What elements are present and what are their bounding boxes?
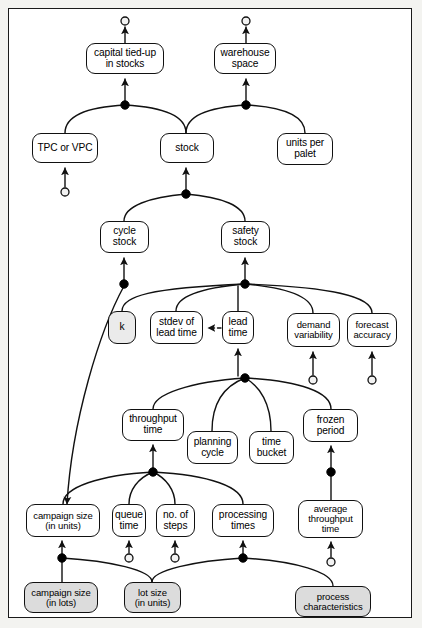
node-k[interactable]: k <box>108 311 136 344</box>
node-label-proc_char: processcharacteristics <box>301 592 364 612</box>
node-label-stdev_lt: stdev oflead time <box>154 317 198 338</box>
node-cycle_stock[interactable]: cyclestock <box>100 221 149 253</box>
node-units_palet[interactable]: units perpalet <box>277 133 333 165</box>
node-label-frozen: frozenperiod <box>315 415 347 436</box>
node-label-camp_lots: campaign size(in lots) <box>29 588 92 608</box>
node-camp_units[interactable]: campaign size(in units) <box>26 504 100 537</box>
node-label-camp_units: campaign size(in units) <box>31 511 94 531</box>
node-lot_units[interactable]: lot size(in units) <box>124 582 181 613</box>
node-label-lot_units: lot size(in units) <box>133 588 172 608</box>
node-warehouse[interactable]: warehousespace <box>214 43 276 74</box>
node-label-capital: capital tied-upin stocks <box>92 48 158 69</box>
node-label-avg_through: averagethroughputtime <box>306 504 354 534</box>
node-label-proc_times: processingtimes <box>217 510 269 531</box>
node-proc_times[interactable]: processingtimes <box>212 504 274 537</box>
node-capital[interactable]: capital tied-upin stocks <box>86 43 164 74</box>
node-throughput[interactable]: throughputtime <box>122 409 184 441</box>
node-label-forecast_acc: forecastaccuracy <box>351 320 392 340</box>
node-safety_stock[interactable]: safetystock <box>221 221 270 253</box>
node-label-queue_time: queuetime <box>113 510 145 531</box>
node-time_bucket[interactable]: timebucket <box>249 431 294 464</box>
node-avg_through[interactable]: averagethroughputtime <box>298 500 363 538</box>
node-label-time_bucket: timebucket <box>255 437 288 458</box>
node-label-warehouse: warehousespace <box>219 48 272 69</box>
node-label-safety_stock: safetystock <box>230 226 261 247</box>
node-forecast_acc[interactable]: forecastaccuracy <box>347 313 397 347</box>
node-label-tpc_vpc: TPC or VPC <box>35 143 94 154</box>
node-stdev_lt[interactable]: stdev oflead time <box>150 311 203 344</box>
node-lead_time[interactable]: leadtime <box>222 311 254 344</box>
node-tpc_vpc[interactable]: TPC or VPC <box>32 133 98 163</box>
node-proc_char[interactable]: processcharacteristics <box>295 586 371 617</box>
node-stock[interactable]: stock <box>160 133 214 163</box>
node-label-stock: stock <box>173 143 200 154</box>
node-frozen[interactable]: frozenperiod <box>303 409 358 442</box>
diagram-canvas: capital tied-upin stockswarehousespaceTP… <box>0 0 422 628</box>
node-no_steps[interactable]: no. ofsteps <box>156 504 195 537</box>
node-queue_time[interactable]: queuetime <box>112 504 146 537</box>
node-label-no_steps: no. ofsteps <box>161 510 190 531</box>
node-camp_lots[interactable]: campaign size(in lots) <box>24 582 98 613</box>
node-label-lead_time: leadtime <box>227 317 250 338</box>
node-label-k: k <box>118 322 127 333</box>
node-label-demand_var: demandvariability <box>292 320 335 340</box>
node-label-planning: planningcycle <box>192 437 234 458</box>
node-demand_var[interactable]: demandvariability <box>287 313 340 347</box>
node-planning[interactable]: planningcycle <box>187 431 238 464</box>
node-label-units_palet: units perpalet <box>284 138 326 159</box>
node-label-cycle_stock: cyclestock <box>111 226 138 247</box>
node-label-throughput: throughputtime <box>127 414 179 435</box>
